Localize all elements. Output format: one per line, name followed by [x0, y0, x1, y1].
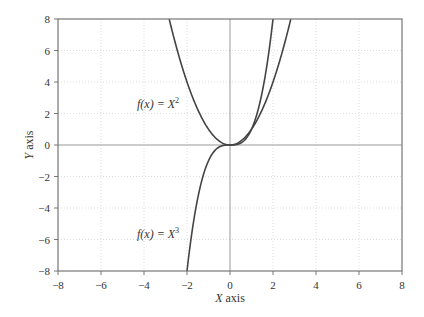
- x-tick-label: 8: [399, 279, 405, 291]
- x-tick-label: −4: [138, 279, 150, 291]
- y-tick-label: 8: [45, 13, 51, 25]
- y-tick-label: −8: [38, 265, 50, 277]
- x-tick-label: 2: [270, 279, 276, 291]
- y-axis-label: Y axis: [22, 130, 36, 159]
- y-tick-label: 6: [45, 45, 51, 57]
- x-tick-label: −6: [95, 279, 107, 291]
- y-tick-label: 0: [45, 139, 51, 151]
- y-tick-label: 2: [45, 108, 51, 120]
- chart: −8−6−4−202468 −8−6−4−202468 X axis Y axi…: [0, 0, 424, 317]
- x-tick-label: 4: [313, 279, 319, 291]
- y-tick-label: −4: [38, 202, 50, 214]
- x-tick-label: −2: [181, 279, 193, 291]
- x-tick-label: −8: [52, 279, 64, 291]
- y-tick-label: −6: [38, 234, 50, 246]
- annotation-x-cubed: f(x) = X3: [137, 226, 179, 241]
- axis-ticks: [54, 19, 402, 275]
- annotation-x-squared: f(x) = X2: [137, 96, 179, 111]
- y-tick-label: −2: [38, 171, 50, 183]
- y-tick-label: 4: [45, 76, 51, 88]
- x-tick-label: 6: [356, 279, 362, 291]
- x-tick-labels: −8−6−4−202468: [52, 279, 405, 291]
- x-tick-label: 0: [227, 279, 233, 291]
- y-tick-labels: −8−6−4−202468: [38, 13, 50, 277]
- x-axis-label: X axis: [214, 291, 245, 305]
